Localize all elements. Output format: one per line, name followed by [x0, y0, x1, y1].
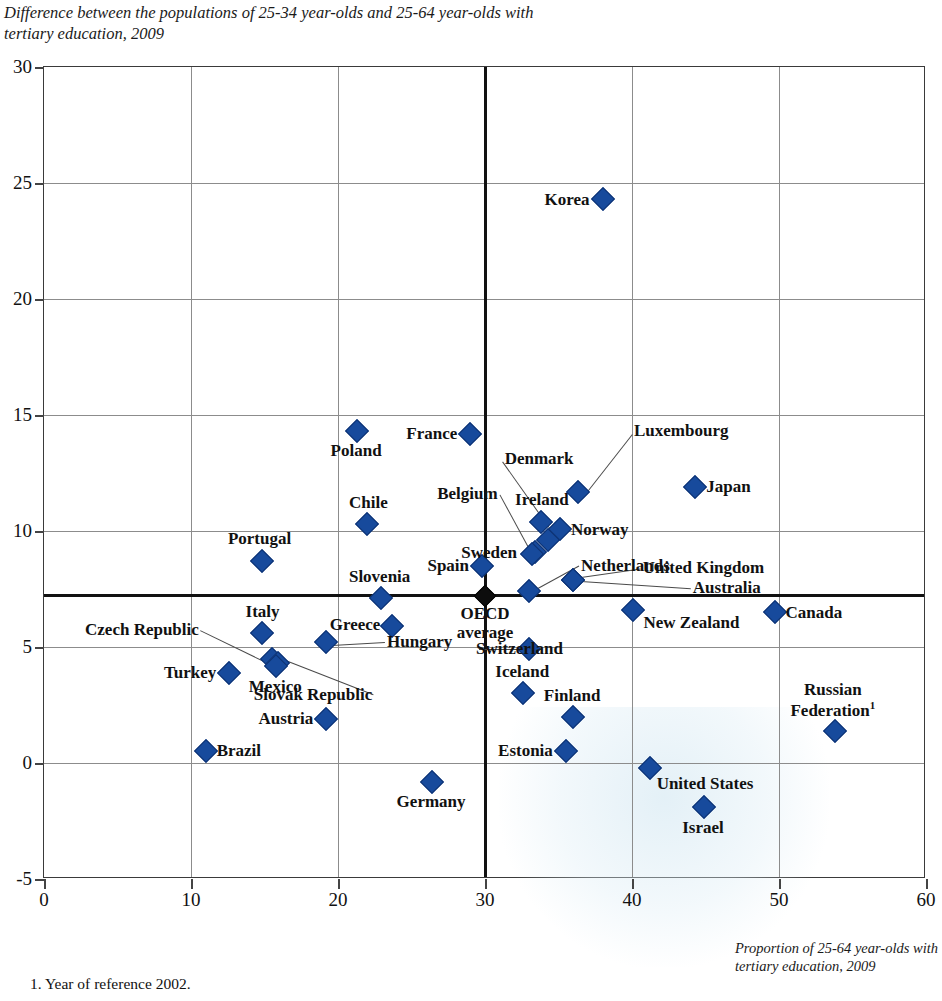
data-point-marker[interactable] — [763, 600, 787, 624]
data-point-marker[interactable] — [355, 512, 379, 536]
data-point-marker[interactable] — [194, 739, 218, 763]
data-point-marker[interactable] — [420, 770, 444, 794]
point-label-mexico: Mexico — [249, 677, 302, 696]
x-tick-mark — [926, 879, 928, 889]
data-point-marker[interactable] — [566, 480, 590, 504]
x-tick-mark — [632, 879, 634, 889]
x-tick-mark — [191, 879, 193, 889]
y-tick-label: 30 — [13, 56, 32, 78]
point-label-hungary: Hungary — [387, 633, 452, 652]
x-tick-label: 30 — [476, 889, 495, 911]
x-axis-caption: Proportion of 25-64 year-olds with terti… — [735, 940, 940, 975]
point-label-russian-federation-line1: Russian — [790, 680, 875, 699]
data-point-marker[interactable] — [692, 795, 716, 819]
plot-area: 0102030405060-5051015202530KoreaFrancePo… — [43, 66, 925, 878]
chart-footnote: 1. Year of reference 2002. — [30, 975, 191, 993]
label-leader-line — [581, 581, 691, 589]
data-point-marker[interactable] — [554, 739, 578, 763]
chart-page: Difference between the populations of 25… — [0, 0, 942, 1001]
point-label-australia: Australia — [693, 578, 761, 597]
point-label-russian-federation: RussianFederation1 — [790, 680, 875, 720]
point-label-czech-republic: Czech Republic — [85, 620, 199, 639]
y-tick-mark — [35, 415, 44, 417]
oecd-average-label-line1: OECD — [457, 604, 514, 623]
x-tick-mark — [44, 879, 46, 889]
point-label-poland: Poland — [331, 442, 382, 461]
data-point-marker[interactable] — [511, 681, 535, 705]
point-label-denmark: Denmark — [505, 450, 574, 469]
data-point-marker[interactable] — [823, 718, 847, 742]
point-label-belgium: Belgium — [437, 484, 497, 503]
x-tick-label: 40 — [623, 889, 642, 911]
x-tick-label: 20 — [329, 889, 348, 911]
footnote-marker: 1 — [870, 699, 876, 711]
point-label-luxembourg: Luxembourg — [634, 421, 728, 440]
oecd-average-label: OECDaverage — [457, 604, 514, 642]
point-label-france: France — [406, 424, 457, 443]
oecd-average-label-line2: average — [457, 623, 514, 642]
gridline-vertical — [632, 67, 633, 877]
y-tick-mark — [35, 299, 44, 301]
x-tick-label: 10 — [182, 889, 201, 911]
point-label-ireland: Ireland — [515, 490, 569, 509]
point-label-russian-federation-line2: Federation1 — [790, 699, 875, 720]
point-label-israel: Israel — [682, 819, 724, 838]
y-tick-label: 5 — [23, 636, 33, 658]
point-label-korea: Korea — [545, 191, 590, 210]
y-tick-label: 25 — [13, 172, 32, 194]
point-label-greece: Greece — [330, 616, 381, 635]
x-tick-mark — [779, 879, 781, 889]
y-tick-label: 0 — [23, 752, 33, 774]
y-tick-mark — [35, 183, 44, 185]
data-point-marker[interactable] — [217, 660, 241, 684]
y-tick-mark — [35, 531, 44, 533]
x-tick-label: 60 — [917, 889, 936, 911]
data-point-marker[interactable] — [517, 579, 541, 603]
x-tick-mark — [485, 879, 487, 889]
data-point-marker[interactable] — [561, 705, 585, 729]
data-point-marker[interactable] — [369, 586, 393, 610]
point-label-iceland: Iceland — [495, 663, 549, 682]
point-label-chile: Chile — [349, 494, 388, 513]
y-tick-mark — [35, 879, 44, 881]
point-label-sweden: Sweden — [461, 544, 517, 563]
y-tick-label: 15 — [13, 404, 32, 426]
y-tick-mark — [35, 67, 44, 69]
x-tick-mark — [338, 879, 340, 889]
point-label-brazil: Brazil — [217, 742, 261, 761]
y-tick-label: -5 — [16, 868, 32, 890]
data-point-marker[interactable] — [345, 419, 369, 443]
point-label-new-zealand: New Zealand — [643, 613, 739, 632]
y-tick-label: 20 — [13, 288, 32, 310]
gridline-vertical — [191, 67, 192, 877]
point-label-united-states: United States — [657, 774, 754, 793]
oecd-average-vertical-line — [484, 67, 487, 877]
point-label-switzerland: Switzerland — [476, 640, 563, 659]
data-point-marker[interactable] — [591, 187, 615, 211]
point-label-austria: Austria — [258, 709, 313, 728]
label-leader-line — [582, 434, 632, 498]
point-label-finland: Finland — [544, 686, 601, 705]
point-label-portugal: Portugal — [228, 530, 291, 549]
point-label-canada: Canada — [786, 604, 843, 623]
gridline-vertical — [338, 67, 339, 877]
point-label-norway: Norway — [571, 520, 629, 539]
data-point-marker[interactable] — [314, 707, 338, 731]
data-point-marker[interactable] — [250, 549, 274, 573]
gridline-vertical — [779, 67, 780, 877]
x-tick-label: 0 — [39, 889, 49, 911]
y-tick-mark — [35, 647, 44, 649]
y-tick-label: 10 — [13, 520, 32, 542]
label-leader-line — [332, 642, 385, 646]
point-label-turkey: Turkey — [164, 663, 216, 682]
data-point-marker[interactable] — [458, 422, 482, 446]
data-point-marker[interactable] — [621, 598, 645, 622]
data-point-marker[interactable] — [683, 475, 707, 499]
point-label-italy: Italy — [246, 603, 280, 622]
point-label-estonia: Estonia — [498, 742, 553, 761]
data-point-marker[interactable] — [250, 621, 274, 645]
point-label-slovenia: Slovenia — [349, 568, 410, 587]
chart-title: Difference between the populations of 25… — [4, 2, 564, 44]
y-tick-mark — [35, 763, 44, 765]
point-label-spain: Spain — [427, 556, 469, 575]
